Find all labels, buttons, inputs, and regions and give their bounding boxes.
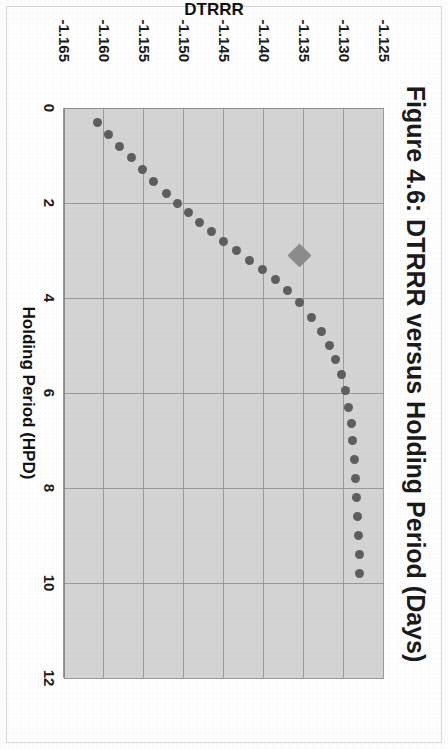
x-axis-tick-label: 2 xyxy=(41,183,58,223)
data-point xyxy=(93,118,102,127)
data-point xyxy=(353,512,362,521)
gridline-horizontal xyxy=(143,108,144,678)
data-point xyxy=(352,493,361,502)
gridline-vertical xyxy=(64,393,384,394)
data-point xyxy=(245,256,254,265)
y-axis-tick-label: -1.160 xyxy=(96,0,113,62)
data-point xyxy=(308,313,317,322)
chart-title: Figure 4.6: DTRRR versus Holding Period … xyxy=(401,24,430,724)
data-point xyxy=(352,474,361,483)
data-point xyxy=(271,275,280,284)
y-axis-title: DTRRR xyxy=(134,0,294,20)
plot-area xyxy=(64,108,384,678)
data-point xyxy=(184,208,193,217)
x-axis-tick-label: 8 xyxy=(41,468,58,508)
data-point xyxy=(356,569,365,578)
gridline-horizontal xyxy=(103,108,104,678)
data-point xyxy=(258,265,267,274)
data-point xyxy=(337,370,346,379)
x-axis-tick-label: 0 xyxy=(41,88,58,128)
chart-figure: Figure 4.6: DTRRR versus Holding Period … xyxy=(14,24,434,724)
data-point xyxy=(116,142,125,151)
gridline-horizontal xyxy=(223,108,224,678)
data-point xyxy=(325,341,334,350)
data-point xyxy=(196,218,205,227)
gridline-vertical xyxy=(64,203,384,204)
data-point xyxy=(355,550,364,559)
data-point xyxy=(348,436,357,445)
x-axis-tick-label: 12 xyxy=(41,658,58,698)
data-point xyxy=(354,531,363,540)
data-point xyxy=(317,327,326,336)
data-point xyxy=(207,227,216,236)
data-point xyxy=(232,246,241,255)
x-axis-tick-label: 6 xyxy=(41,373,58,413)
highlighted-data-point xyxy=(288,243,312,267)
data-point xyxy=(220,237,229,246)
gridline-horizontal xyxy=(383,108,384,678)
x-axis-tick-label: 10 xyxy=(41,563,58,603)
data-point xyxy=(149,177,158,186)
gridline-horizontal xyxy=(183,108,184,678)
data-point xyxy=(350,455,359,464)
y-axis-tick-label: -1.135 xyxy=(296,0,313,62)
y-axis-tick-label: -1.165 xyxy=(56,0,73,62)
data-point xyxy=(173,199,182,208)
data-point xyxy=(332,355,341,364)
gridline-vertical xyxy=(64,583,384,584)
rotated-figure-wrapper: Figure 4.6: DTRRR versus Holding Period … xyxy=(14,24,434,724)
gridline-vertical xyxy=(64,678,384,679)
y-axis-tick-label: -1.130 xyxy=(336,0,353,62)
data-point xyxy=(104,130,113,139)
x-axis-title: Holding Period (HPD) xyxy=(18,108,38,678)
data-point xyxy=(347,419,356,428)
gridline-vertical xyxy=(64,488,384,489)
y-axis-tick-label: -1.125 xyxy=(376,0,393,62)
data-point xyxy=(162,189,171,198)
data-point xyxy=(127,153,136,162)
y-axis-line xyxy=(64,108,384,109)
x-axis-tick-label: 4 xyxy=(41,278,58,318)
data-point xyxy=(344,403,353,412)
gridline-horizontal xyxy=(263,108,264,678)
data-point xyxy=(284,286,293,295)
gridline-vertical xyxy=(64,298,384,299)
scanned-page: Figure 4.6: DTRRR versus Holding Period … xyxy=(0,0,448,749)
gridline-horizontal xyxy=(303,108,304,678)
data-point xyxy=(138,165,147,174)
x-axis-line xyxy=(64,108,65,678)
